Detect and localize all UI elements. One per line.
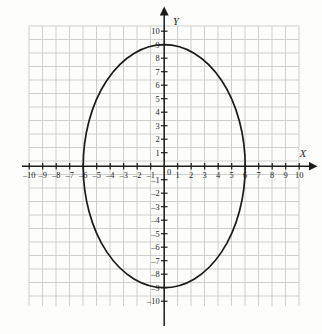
x-tick-label: –5 [92, 171, 101, 180]
y-tick-label: 10 [151, 27, 159, 36]
y-tick-label: –7 [150, 257, 159, 266]
x-tick-label: 1 [176, 171, 180, 180]
y-tick-label: –10 [146, 297, 160, 306]
x-tick-label: –7 [65, 171, 74, 180]
y-tick-label: 3 [155, 122, 159, 131]
x-axis-label: X [299, 148, 307, 159]
y-tick-label: –8 [150, 270, 159, 279]
coordinate-plane-figure: –10–9–8–7–6–5–4–3–2–11234567891010987654… [0, 0, 322, 334]
x-tick-label: 7 [257, 171, 261, 180]
y-tick-label: –6 [150, 243, 159, 252]
y-tick-label: –4 [150, 216, 160, 225]
y-tick-label: 7 [155, 68, 159, 77]
x-tick-label: –10 [22, 171, 36, 180]
x-tick-label: 10 [295, 171, 303, 180]
y-tick-label: 9 [155, 41, 159, 50]
y-tick-label: –3 [150, 203, 159, 212]
x-tick-label: 6 [243, 171, 247, 180]
y-tick-label: –2 [150, 189, 159, 198]
x-tick-label: 9 [284, 171, 288, 180]
y-tick-label: –5 [150, 230, 159, 239]
y-tick-label: –9 [150, 284, 159, 293]
x-tick-label: 5 [230, 171, 234, 180]
x-tick-label: –2 [132, 171, 141, 180]
y-tick-label: 8 [155, 54, 159, 63]
figure-background [0, 0, 322, 334]
y-tick-label: –1 [150, 176, 159, 185]
x-tick-label: –6 [78, 171, 87, 180]
origin-label: 0 [167, 168, 171, 177]
y-tick-label: 1 [155, 149, 159, 158]
y-tick-label: 2 [155, 135, 159, 144]
x-tick-label: 2 [189, 171, 193, 180]
x-tick-label: –4 [105, 171, 115, 180]
y-tick-label: 5 [155, 95, 159, 104]
y-tick-label: 6 [155, 81, 159, 90]
graph-canvas: –10–9–8–7–6–5–4–3–2–11234567891010987654… [0, 0, 322, 334]
x-tick-label: –8 [51, 171, 60, 180]
x-tick-label: –9 [38, 171, 47, 180]
x-tick-label: 3 [203, 171, 207, 180]
x-tick-label: –3 [119, 171, 128, 180]
x-tick-label: 8 [270, 171, 274, 180]
